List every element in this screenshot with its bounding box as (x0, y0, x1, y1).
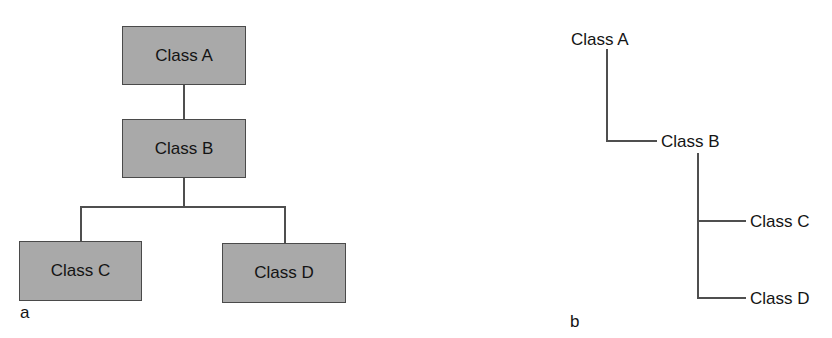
node-class-d-box: Class D (222, 243, 346, 303)
node-class-c-box: Class C (19, 241, 142, 301)
tree-node-class-c: Class C (750, 213, 810, 230)
tree-node-class-a: Class A (571, 31, 629, 48)
edge-b-d-horizontal (697, 297, 746, 299)
tree-node-class-b: Class B (661, 133, 720, 150)
node-label: Class C (51, 261, 111, 281)
edge-b-d (284, 206, 286, 243)
node-class-b-box: Class B (122, 119, 246, 178)
edge-b-vertical (697, 153, 699, 298)
tree-node-class-d: Class D (750, 290, 810, 307)
edge-b-trunk (183, 178, 185, 207)
edge-bus (80, 206, 285, 208)
edge-a-b (183, 85, 185, 119)
panel-b-label: b (570, 313, 579, 330)
node-class-a-box: Class A (122, 26, 246, 85)
node-label: Class D (254, 263, 314, 283)
edge-b-c-horizontal (697, 220, 746, 222)
edge-a-b-horizontal (606, 140, 657, 142)
node-label: Class B (155, 139, 214, 159)
edge-a-b-vertical (606, 49, 608, 141)
panel-a-label: a (20, 304, 29, 321)
class-hierarchy-figure: Class A Class B Class C Class D a Class … (0, 0, 832, 338)
edge-b-c (80, 206, 82, 241)
node-label: Class A (155, 46, 213, 66)
